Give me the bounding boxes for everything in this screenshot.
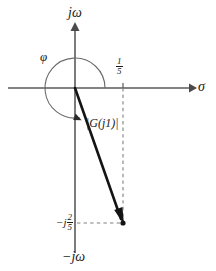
phase-angle-label: φ xyxy=(40,50,47,63)
real-tick-fraction: 1 5 xyxy=(116,57,123,76)
negative-imaginary-axis-label: −jω xyxy=(62,250,85,264)
diagram-canvas xyxy=(0,0,216,271)
imaginary-tick-fraction: 2 5 xyxy=(67,213,74,232)
phasor-endpoint-dot xyxy=(120,220,125,225)
real-axis-arrowhead xyxy=(189,84,197,93)
magnitude-label: |G(j1)| xyxy=(86,117,119,129)
imaginary-tick-denominator: 5 xyxy=(67,223,74,232)
imaginary-axis-tick-label: − j 2 5 xyxy=(56,213,73,232)
real-axis-label: σ xyxy=(198,80,205,94)
imaginary-axis-arrowhead xyxy=(71,22,80,31)
phasor-diagram-figure: jω −jω σ φ |G(j1)| 1 5 − j 2 5 xyxy=(0,0,216,271)
real-tick-denominator: 5 xyxy=(116,67,123,76)
real-axis-tick-label: 1 5 xyxy=(116,57,123,76)
imaginary-axis-label: jω xyxy=(68,6,82,20)
phasor-vector-line xyxy=(75,88,121,219)
